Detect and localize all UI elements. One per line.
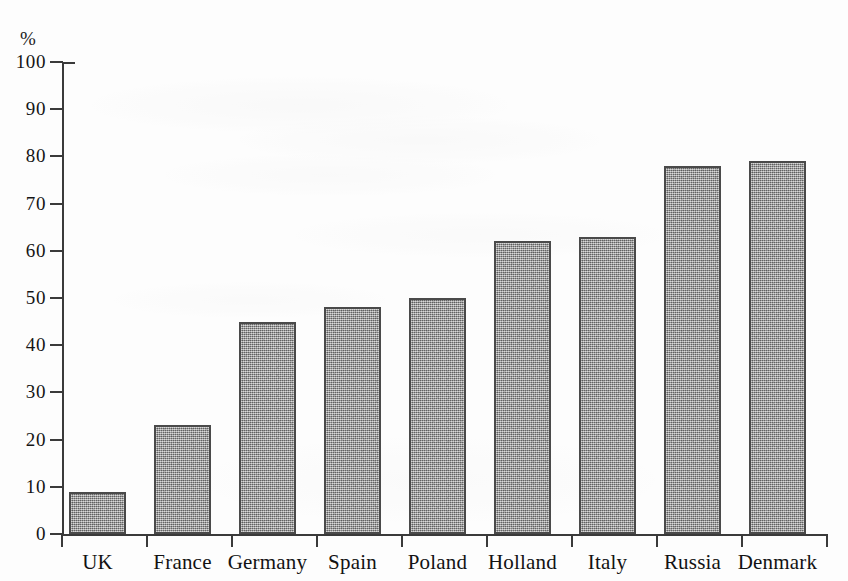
bar-chart-figure: % 0102030405060708090100 UKFranceGermany… <box>0 0 848 581</box>
x-axis-tick <box>571 534 573 547</box>
bar-halftone-texture <box>326 309 379 532</box>
y-axis-tick <box>50 439 63 441</box>
bar-halftone-texture <box>71 494 124 532</box>
x-axis-category-label: Poland <box>408 550 468 575</box>
bar-halftone-texture <box>666 168 719 532</box>
x-axis-tick <box>486 534 488 547</box>
y-axis-tick-label: 90 <box>0 98 46 120</box>
y-axis-tick-label: 100 <box>0 51 46 73</box>
y-axis-tick <box>50 155 63 157</box>
bar <box>664 166 721 534</box>
bar <box>409 298 466 534</box>
bar-halftone-texture <box>496 243 549 532</box>
bar <box>69 492 126 534</box>
x-axis-line <box>62 534 826 536</box>
y-axis-tick <box>50 391 63 393</box>
y-axis-tick <box>50 108 63 110</box>
bar-halftone-texture <box>241 324 294 532</box>
y-axis-tick-label: 20 <box>0 429 46 451</box>
y-axis-tick <box>50 297 63 299</box>
y-axis-tick-label: 80 <box>0 145 46 167</box>
x-axis-tick <box>231 534 233 547</box>
x-axis-tick <box>316 534 318 547</box>
x-axis-tick <box>401 534 403 547</box>
x-axis-category-label: Denmark <box>738 550 818 575</box>
bar <box>154 425 211 534</box>
y-axis-tick <box>50 486 63 488</box>
bar <box>324 307 381 534</box>
x-axis-category-label: Germany <box>228 550 308 575</box>
x-axis-category-label: UK <box>82 550 113 575</box>
bar-halftone-texture <box>156 427 209 532</box>
y-axis-tick-label: 30 <box>0 381 46 403</box>
bar-halftone-texture <box>411 300 464 532</box>
x-axis-category-label: Russia <box>664 550 721 575</box>
x-axis-tick <box>656 534 658 547</box>
x-axis-tick <box>61 534 63 547</box>
y-axis-top-cap <box>62 62 75 64</box>
bar <box>749 161 806 534</box>
y-axis-tick-label: 70 <box>0 193 46 215</box>
bar <box>579 237 636 534</box>
y-axis-tick <box>50 203 63 205</box>
bar-halftone-texture <box>581 239 634 532</box>
x-axis-category-label: France <box>153 550 211 575</box>
y-axis-tick <box>50 61 63 63</box>
x-axis-category-label: Spain <box>328 550 377 575</box>
y-axis-tick-label: 10 <box>0 476 46 498</box>
y-axis-tick <box>50 250 63 252</box>
y-axis-tick-label: 40 <box>0 334 46 356</box>
y-axis-tick-label: 50 <box>0 287 46 309</box>
x-axis-category-label: Italy <box>588 550 627 575</box>
y-axis-tick-label: 0 <box>0 523 46 545</box>
bar <box>494 241 551 534</box>
x-axis-category-label: Holland <box>488 550 557 575</box>
bar <box>239 322 296 534</box>
y-axis-tick <box>50 344 63 346</box>
y-axis-tick-label: 60 <box>0 240 46 262</box>
x-axis-tick <box>146 534 148 547</box>
x-axis-tick <box>826 534 828 547</box>
x-axis-tick <box>741 534 743 547</box>
y-axis-unit-label: % <box>20 28 36 50</box>
bar-halftone-texture <box>751 163 804 532</box>
